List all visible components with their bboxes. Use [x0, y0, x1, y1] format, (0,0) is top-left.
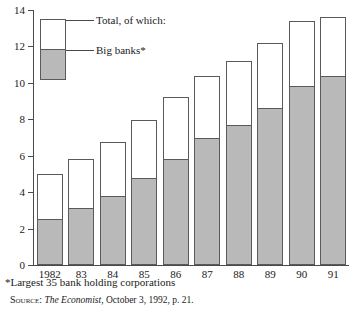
bar-group [320, 17, 346, 265]
x-axis-tick-label: 91 [318, 268, 350, 280]
y-axis-tick-label: 14 [1, 5, 25, 16]
bar-segment-big-banks [100, 196, 126, 265]
bar-group [163, 97, 189, 265]
y-axis-tick-label: 8 [1, 114, 25, 125]
bar-group [289, 21, 315, 265]
x-axis-tick-label: 87 [192, 268, 224, 280]
bar-group [226, 61, 252, 265]
source-publication: The Economist [44, 295, 101, 305]
y-axis-tick-label: 12 [1, 41, 25, 52]
y-axis-tick-label: 2 [1, 224, 25, 235]
x-axis-tick-label: 89 [255, 268, 287, 280]
y-axis-tick [28, 156, 33, 157]
bar-segment-big-banks [289, 86, 315, 265]
y-axis-tick [28, 119, 33, 120]
bar-segment-big-banks [131, 178, 157, 265]
chart-footnote: *Largest 35 bank holding corporations [5, 276, 175, 289]
y-axis-tick-label: 4 [1, 187, 25, 198]
bar-group [37, 174, 63, 265]
plot-area: 02468101214 1982838485868788899091 [0, 0, 357, 272]
y-axis-tick [28, 229, 33, 230]
x-axis-tick-label: 88 [223, 268, 255, 280]
bar-group [131, 120, 157, 265]
bar-group [100, 142, 126, 265]
bar-series-container [34, 0, 349, 266]
bar-segment-big-banks [163, 159, 189, 265]
bar-segment-big-banks [257, 108, 283, 265]
source-prefix: Source: [10, 294, 42, 305]
x-axis-tick-label: 90 [286, 268, 318, 280]
source-rest: , October 3, 1992, p. 21. [101, 295, 193, 305]
bar-segment-big-banks [194, 138, 220, 266]
y-axis-tick-label: 6 [1, 151, 25, 162]
y-axis-tick [28, 83, 33, 84]
chart-figure: 02468101214 1982838485868788899091 Total… [0, 0, 357, 309]
y-axis-tick [28, 46, 33, 47]
bar-group [68, 159, 94, 265]
y-axis-tick [28, 265, 33, 266]
y-axis-tick [28, 10, 33, 11]
bar-segment-big-banks [68, 208, 94, 265]
y-axis-tick-label: 10 [1, 78, 25, 89]
bar-group [194, 76, 220, 265]
bar-group [257, 43, 283, 265]
bar-segment-big-banks [226, 125, 252, 265]
chart-source: Source: The Economist, October 3, 1992, … [10, 294, 194, 306]
y-axis-tick [28, 192, 33, 193]
bar-segment-big-banks [320, 76, 346, 265]
y-axis-tick-label: 0 [1, 260, 25, 271]
bar-segment-big-banks [37, 219, 63, 265]
